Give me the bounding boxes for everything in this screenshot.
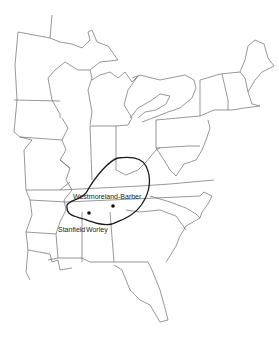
- state-borders-north: [14, 15, 274, 180]
- point-worley: [87, 211, 91, 215]
- label-westmoreland-barber: Westmoreland-Barber: [73, 193, 141, 200]
- label-worley: Worley: [86, 226, 108, 233]
- label-stanfield: Stanfield: [58, 226, 85, 233]
- range-map: Westmoreland-Barber Stanfield Worley: [0, 0, 279, 341]
- map-base: [0, 0, 279, 341]
- point-westmoreland-barber: [111, 204, 115, 208]
- range-outline: [67, 157, 150, 224]
